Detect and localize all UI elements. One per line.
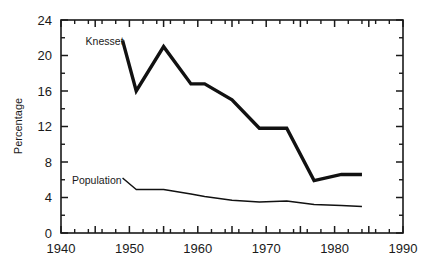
y-tick-label: 0 — [45, 226, 52, 241]
y-tick-label: 8 — [45, 155, 52, 170]
y-tick-label: 4 — [45, 190, 52, 205]
y-tick-label: 20 — [38, 48, 52, 63]
y-tick-label: 12 — [38, 119, 52, 134]
x-tick-label: 1950 — [115, 241, 144, 256]
chart-container: 194019501960197019801990 04812162024 Per… — [0, 0, 433, 269]
x-tick-label: 1940 — [47, 241, 76, 256]
x-tick-label: 1990 — [389, 241, 418, 256]
y-tick-label: 16 — [38, 84, 52, 99]
series-annotation-population: Population — [72, 174, 122, 186]
series-annotation-knesset: Knesset — [86, 35, 124, 47]
y-axis-title: Percentage — [12, 98, 24, 154]
x-tick-label: 1970 — [252, 241, 281, 256]
x-tick-label: 1980 — [320, 241, 349, 256]
line-chart: 194019501960197019801990 04812162024 Per… — [0, 0, 433, 269]
x-tick-label: 1960 — [183, 241, 212, 256]
y-tick-label: 24 — [38, 13, 52, 28]
